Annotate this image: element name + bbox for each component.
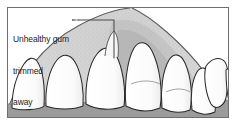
callout-line-1: Unhealthy gum <box>13 34 93 45</box>
callout-line-2: trimmed <box>13 66 93 77</box>
callout-line-3: away <box>13 97 93 108</box>
unhealthy-gum-callout: Unhealthy gum trimmed away <box>13 13 93 126</box>
dental-illustration-figure: Unhealthy gum trimmed away <box>0 0 241 126</box>
